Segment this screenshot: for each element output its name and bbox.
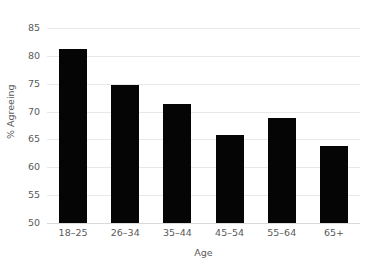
bar-series (47, 28, 360, 223)
plot-area (47, 28, 360, 223)
y-tick-label: 50 (0, 218, 40, 228)
y-tick-label: 65 (0, 135, 40, 145)
y-tick-label: 80 (0, 51, 40, 61)
y-tick-label: 70 (0, 107, 40, 117)
x-tick-label: 55–64 (267, 228, 296, 238)
bar (59, 49, 87, 223)
bar (216, 135, 244, 223)
y-tick-label: 85 (0, 23, 40, 33)
bar (320, 146, 348, 223)
y-axis-tick-labels: 5055606570758085 (0, 28, 40, 223)
bar-chart: % Agreeing 5055606570758085 18–2526–3435… (0, 0, 371, 268)
x-axis-tick-labels: 18–2526–3435–4445–5455–6465+ (47, 228, 360, 242)
y-tick-label: 55 (0, 190, 40, 200)
x-tick-label: 18–25 (59, 228, 88, 238)
x-tick-label: 65+ (324, 228, 344, 238)
x-tick-label: 45–54 (215, 228, 244, 238)
gridline-50 (47, 223, 360, 224)
y-tick-label: 60 (0, 163, 40, 173)
bar (268, 118, 296, 223)
x-tick-label: 35–44 (163, 228, 192, 238)
y-tick-label: 75 (0, 79, 40, 89)
x-tick-label: 26–34 (111, 228, 140, 238)
bar (111, 85, 139, 223)
bar (163, 104, 191, 223)
x-axis-title: Age (47, 248, 360, 258)
